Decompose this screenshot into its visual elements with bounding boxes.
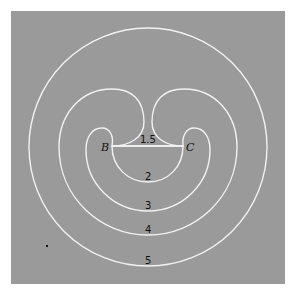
curve-label-5: 5 <box>145 255 151 266</box>
curve-label-1-5: 1.5 <box>140 134 156 145</box>
figure-background <box>11 11 285 284</box>
point-label-b: B <box>100 141 109 154</box>
curve-label-3: 3 <box>145 200 151 211</box>
curve-label-4: 4 <box>145 224 151 235</box>
point-label-c: C <box>186 141 195 154</box>
equipotential-diagram: B C 1.5 2 3 4 5 <box>0 0 295 291</box>
stray-dot <box>46 245 48 247</box>
curve-label-2: 2 <box>145 171 151 182</box>
